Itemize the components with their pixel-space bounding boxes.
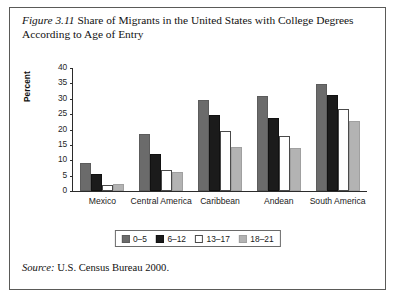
y-axis-tick-mark [70,191,74,192]
bar [338,109,349,191]
y-axis-tick-label: 10 [58,154,67,164]
y-axis-tick-label: 40 [58,62,67,72]
bar [209,115,220,191]
bar [161,170,172,191]
x-axis-tick-label: Caribbean [200,196,240,206]
legend-swatch-icon [121,235,129,243]
legend-label: 6–12 [167,234,186,244]
legend-label: 13–17 [207,234,230,244]
bar [198,100,209,191]
legend-swatch-icon [195,235,203,243]
bar [113,184,124,191]
x-axis-tick-label: Central America [131,196,192,206]
figure-source: Source: U.S. Census Bureau 2000. [22,262,169,273]
y-axis-tick-label: 5 [62,170,67,180]
y-axis-tick-label: 25 [58,108,67,118]
legend-swatch-icon [239,235,247,243]
bar [257,96,268,191]
bar [316,84,327,191]
bar [150,154,161,192]
x-axis-tick-label: Mexico [89,196,116,206]
bar [349,121,360,191]
legend-swatch-icon [156,235,164,243]
y-axis-tick-label: 30 [58,93,67,103]
y-axis-tick-label: 35 [58,77,67,87]
source-label: Source: [22,262,55,273]
chart-legend: 0–56–1213–1718–21 [114,230,280,247]
bar [102,185,113,191]
bar [290,148,301,191]
y-axis-tick-label: 20 [58,124,67,134]
bar-group: Mexico [80,68,124,191]
bar [139,134,150,191]
bar-group: Central America [139,68,183,191]
y-axis-tick-label: 15 [58,139,67,149]
legend-label: 18–21 [250,234,273,244]
bar [80,163,91,191]
legend-item: 18–21 [239,234,274,244]
bar-group: South America [316,68,360,191]
x-axis-tick-label: South America [310,196,366,206]
bar [231,147,242,191]
bar-chart: Percent 0510152025303540 MexicoCentral A… [20,62,375,222]
legend-item: 0–5 [121,234,146,244]
figure-page: Figure 3.11 Share of Migrants in the Uni… [0,0,395,298]
y-axis-tick-label: 0 [62,185,67,195]
source-text: U.S. Census Bureau 2000. [57,262,169,273]
bar [91,174,102,191]
bar-groups: MexicoCentral AmericaCaribbeanAndeanSout… [73,68,367,191]
plot-area: 0510152025303540 MexicoCentral AmericaCa… [72,68,367,192]
bar [279,136,290,191]
bar [172,172,183,191]
bar-group: Andean [257,68,301,191]
bar [327,95,338,191]
bar [268,118,279,191]
figure-number: Figure 3.11 [22,14,75,26]
bar-group: Caribbean [198,68,242,191]
x-axis-tick-label: Andean [264,196,294,206]
legend-item: 6–12 [156,234,186,244]
bar [220,131,231,191]
legend-label: 0–5 [133,234,147,244]
y-axis-label: Percent [22,71,32,102]
figure-title: Figure 3.11 Share of Migrants in the Uni… [22,14,360,41]
legend-item: 13–17 [195,234,230,244]
